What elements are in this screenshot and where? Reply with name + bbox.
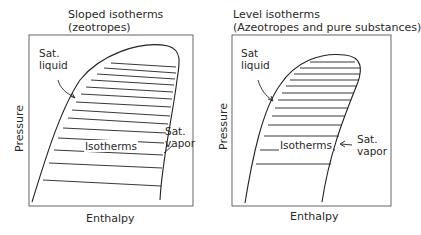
right-isotherms-label: Isotherms (279, 139, 333, 151)
right-sat-liquid-label-1: Sat (241, 47, 258, 59)
left-x-axis-label: Enthalpy (86, 212, 135, 225)
left-title-line1: Sloped isotherms (68, 8, 163, 21)
left-sat-vapor-label-2: vapor (165, 137, 195, 149)
left-y-axis-label: Pressure (13, 105, 26, 152)
left-sat-liquid-label-1: Sat. (39, 47, 60, 59)
right-sat-vapor-arrow (341, 144, 352, 145)
right-y-axis-label: Pressure (217, 103, 230, 150)
right-sat-vapor-label-1: Sat. (357, 133, 378, 145)
right-title-line1: Level isotherms (233, 8, 320, 21)
left-sat-vapor-label-1: Sat. (165, 125, 186, 137)
right-saturation-dome (245, 54, 360, 203)
left-title-line2: (zeotropes) (68, 21, 131, 34)
right-sat-liquid-arrow (258, 80, 272, 100)
right-title-line2: (Azeotropes and pure substances) (233, 21, 421, 34)
left-isotherms-label: Isotherms (84, 140, 138, 152)
right-sat-vapor-label-2: vapor (357, 145, 387, 157)
right-x-axis-label: Enthalpy (290, 210, 339, 223)
left-sat-liquid-label-2: liquid (39, 59, 68, 71)
right-sat-liquid-label-2: liquid (241, 59, 270, 71)
left-isotherms (43, 63, 176, 186)
